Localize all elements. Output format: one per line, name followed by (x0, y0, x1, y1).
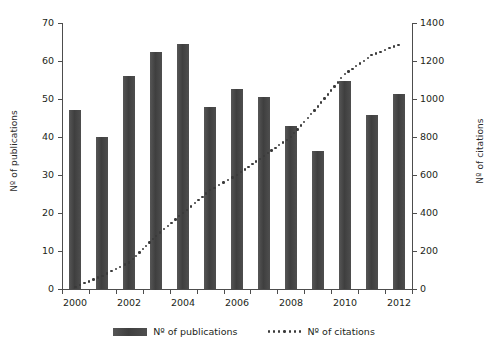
citation-point (213, 187, 215, 189)
x-axis-tick (277, 290, 278, 294)
citation-point (274, 147, 276, 149)
x-axis-tick-label: 2004 (163, 297, 203, 308)
x-axis-tick (304, 290, 305, 294)
citation-point (142, 248, 144, 250)
bar (96, 137, 108, 289)
citation-point (375, 52, 377, 54)
citation-point (370, 54, 372, 56)
bar-swatch-icon (113, 328, 147, 336)
y-axis-right-title: Nº of citations (475, 91, 485, 211)
y-axis-left-line (62, 23, 63, 290)
x-axis-tick (89, 290, 90, 294)
citation-point (347, 70, 349, 72)
y-axis-left-tick-label: 60 (28, 55, 54, 66)
citation-point (106, 272, 108, 274)
citation-point (393, 45, 395, 47)
citation-point (327, 93, 329, 95)
legend-label-citations: Nº of citations (308, 326, 375, 337)
y-axis-left-tick (58, 61, 62, 62)
citation-point (340, 77, 342, 79)
dotted-swatch-icon (268, 328, 302, 336)
citation-point (231, 176, 233, 178)
citation-point (197, 199, 199, 201)
y-axis-left-tick-label: 10 (28, 245, 54, 256)
y-axis-left-title: Nº of publications (9, 91, 19, 211)
citation-point (159, 231, 161, 233)
citation-point (227, 179, 229, 181)
citation-point (138, 251, 140, 253)
citation-point (110, 270, 112, 272)
y-axis-left-tick-label: 50 (28, 93, 54, 104)
y-axis-right-tick (413, 175, 417, 176)
citation-point (145, 245, 147, 247)
citation-point (101, 275, 103, 277)
citation-point (313, 109, 315, 111)
x-axis-tick (331, 290, 332, 294)
x-axis-tick (358, 290, 359, 294)
x-axis-tick-label: 2006 (217, 297, 257, 308)
citation-point (124, 263, 126, 265)
y-axis-right-tick-label: 1000 (420, 93, 450, 104)
citation-point (307, 117, 309, 119)
bar (204, 107, 216, 289)
y-axis-left-tick (58, 251, 62, 252)
citation-point (218, 184, 220, 186)
x-axis-tick (197, 290, 198, 294)
bar (177, 44, 189, 289)
citation-point (119, 266, 121, 268)
citation-point (337, 81, 339, 83)
bar (393, 94, 405, 289)
citation-point (388, 47, 390, 49)
citation-point (74, 286, 76, 288)
x-axis-tick (385, 290, 386, 294)
citation-point (190, 205, 192, 207)
y-axis-right-tick-label: 1400 (420, 17, 450, 28)
y-axis-left-tick (58, 137, 62, 138)
citation-point (194, 202, 196, 204)
y-axis-right-tick (413, 99, 417, 100)
y-axis-left-tick-label: 40 (28, 131, 54, 142)
citation-point (351, 68, 353, 70)
citation-point (384, 49, 386, 51)
y-axis-left-tick (58, 23, 62, 24)
citation-point (247, 166, 249, 168)
citation-point (163, 228, 165, 230)
x-axis-tick (143, 290, 144, 294)
citation-point (363, 60, 365, 62)
y-axis-left-tick (58, 213, 62, 214)
bar (312, 151, 324, 289)
y-axis-right-tick-label: 600 (420, 169, 450, 180)
x-axis-tick-label: 2000 (55, 297, 95, 308)
citation-point (97, 276, 99, 278)
citation-point (167, 225, 169, 227)
citation-point (115, 268, 117, 270)
x-axis-tick (62, 290, 63, 294)
y-axis-right-tick (413, 289, 417, 290)
citation-point (270, 149, 272, 151)
citation-point (355, 65, 357, 67)
citation-point (320, 101, 322, 103)
citation-point (310, 113, 312, 115)
citation-point (286, 139, 288, 141)
citation-point (174, 218, 176, 220)
y-axis-left-tick (58, 175, 62, 176)
bar (150, 52, 162, 290)
x-axis-tick-label: 2012 (379, 297, 419, 308)
y-axis-right-tick-label: 400 (420, 207, 450, 218)
y-axis-right-tick (413, 137, 417, 138)
y-axis-left-tick-label: 0 (28, 283, 54, 294)
citation-point (222, 181, 224, 183)
bar (285, 126, 297, 289)
citation-point (303, 121, 305, 123)
y-axis-left-tick-label: 70 (28, 17, 54, 28)
citation-point (170, 222, 172, 224)
x-axis-tick (250, 290, 251, 294)
citation-point (379, 51, 381, 53)
x-axis-tick (412, 290, 413, 294)
citation-point (300, 124, 302, 126)
x-axis-tick (170, 290, 171, 294)
y-axis-right-tick-label: 200 (420, 245, 450, 256)
citation-point (323, 97, 325, 99)
chart-legend: Nº of publications Nº of citations (0, 326, 488, 337)
bar (69, 110, 81, 289)
